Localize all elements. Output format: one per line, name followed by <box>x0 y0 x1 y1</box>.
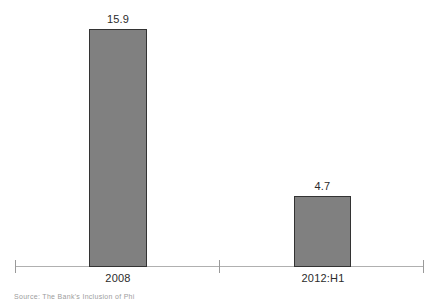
x-axis-category-label-2012-h1: 2012:H1 <box>282 272 364 285</box>
bar-2012-h1[interactable] <box>294 196 351 267</box>
x-axis-tick-right <box>423 260 424 273</box>
bar-2008[interactable] <box>89 29 147 267</box>
bar-value-label-2008: 15.9 <box>89 13 147 26</box>
plot-area: 15.9 4.7 2008 2012:H1 <box>0 0 440 301</box>
x-axis-tick-left <box>15 260 16 273</box>
bar-chart: 15.9 4.7 2008 2012:H1 Source: The Bank's… <box>0 0 440 301</box>
x-axis-tick-middle <box>219 260 220 273</box>
bar-value-label-2012-h1: 4.7 <box>294 180 351 193</box>
x-axis-category-label-2008: 2008 <box>79 272 157 285</box>
source-note: Source: The Bank's Inclusion of Phi <box>14 292 135 301</box>
